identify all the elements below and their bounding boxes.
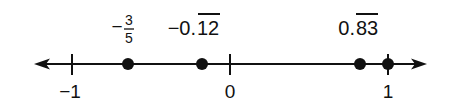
- fraction-denominator: 5: [125, 30, 133, 46]
- number-line-diagram: −1 0 1 − 3 5 −0. 12 0. 83: [0, 0, 452, 108]
- fraction-numerator: 3: [125, 12, 133, 28]
- decimal-prefix: 0.: [338, 17, 355, 39]
- label-0-83-repeating: 0. 83: [338, 14, 378, 39]
- fraction-sign: −: [111, 16, 122, 37]
- tick-label-one: 1: [383, 81, 394, 102]
- label-neg-0-12-repeating: −0. 12: [168, 14, 220, 39]
- repeating-digits: 83: [356, 17, 378, 39]
- repeating-digits: 12: [197, 17, 219, 39]
- point-neg-0-12-repeating: [196, 58, 208, 70]
- point-one: [382, 58, 394, 70]
- decimal-prefix: −0.: [168, 17, 196, 39]
- point-0-83-repeating: [354, 58, 366, 70]
- point-neg-three-fifths: [122, 58, 134, 70]
- tick-label-neg-one: −1: [59, 81, 81, 102]
- label-neg-three-fifths: − 3 5: [111, 12, 134, 46]
- tick-label-zero: 0: [225, 81, 236, 102]
